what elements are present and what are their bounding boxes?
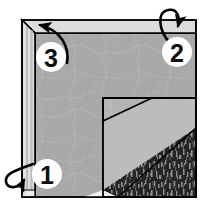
step-label-3-text: 3 <box>44 44 58 72</box>
diagram-canvas: 3 2 1 <box>0 0 206 211</box>
step-label-2-text: 2 <box>170 39 184 67</box>
step-label-1: 1 <box>32 159 62 189</box>
step-label-1-text: 1 <box>40 161 54 189</box>
step-label-3: 3 <box>36 42 66 72</box>
step-label-2: 2 <box>162 37 192 67</box>
left-strip-foot <box>22 190 35 197</box>
folding-diagram-figure: 3 2 1 <box>0 0 206 211</box>
